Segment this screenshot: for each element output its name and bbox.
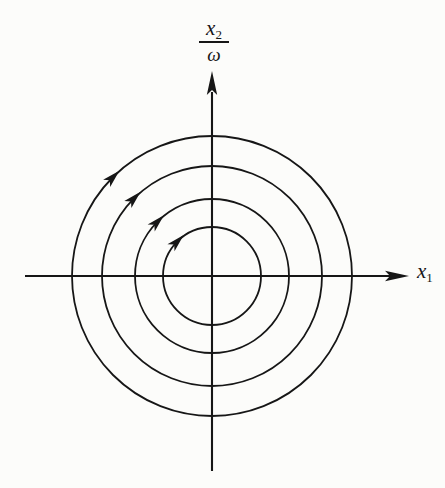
phase-portrait-svg — [0, 0, 445, 488]
fraction-bar — [199, 41, 229, 43]
direction-arrow-icon — [167, 231, 187, 251]
y-axis-label: x2 ω — [194, 18, 234, 64]
y-axis-arrowhead-icon — [207, 71, 217, 95]
y-axis-label-numerator: x2 — [194, 18, 234, 39]
x-axis-label: x1 — [417, 261, 433, 282]
figure-canvas: x2 ω x1 — [0, 0, 445, 488]
y-axis-label-base: x — [206, 16, 215, 40]
y-axis-label-subscript: 2 — [215, 27, 222, 42]
x-axis-label-base: x — [417, 259, 426, 283]
x-axis-label-subscript: 1 — [426, 270, 433, 285]
y-axis-label-denominator: ω — [194, 45, 234, 64]
